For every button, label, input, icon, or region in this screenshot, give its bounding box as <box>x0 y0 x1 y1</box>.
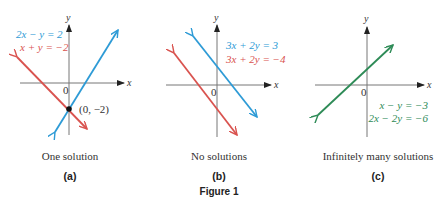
equation-red: 3x + 2y = −4 <box>225 53 286 65</box>
panel-a: x y 0 (0, −2) 2x − y = 2 x + y = −2 One … <box>16 12 132 182</box>
intersection-point <box>66 106 72 112</box>
equation-green-2: 2x − 2y = −6 <box>368 112 428 124</box>
panel-caption: Infinitely many solutions <box>323 150 434 162</box>
y-axis-label: y <box>65 12 71 23</box>
panel-label: (a) <box>64 170 77 182</box>
x-axis-label: x <box>273 79 279 90</box>
figure-canvas: x y 0 (0, −2) 2x − y = 2 x + y = −2 One … <box>0 0 442 213</box>
panel-b: x y 0 3x + 2y = 3 3x + 2y = −4 No soluti… <box>166 12 286 182</box>
equation-red: x + y = −2 <box>19 41 69 53</box>
panel-caption: One solution <box>42 150 99 162</box>
origin-label: 0 <box>361 86 367 98</box>
x-axis-label: x <box>126 77 132 88</box>
y-axis-label: y <box>363 13 369 24</box>
panel-c: x y 0 x − y = −3 2x − 2y = −6 Infinitely… <box>315 13 433 182</box>
panel-label: (b) <box>212 170 225 182</box>
y-axis-label: y <box>213 12 219 23</box>
equation-green-1: x − y = −3 <box>378 99 428 111</box>
equation-blue: 3x + 2y = 3 <box>225 39 279 51</box>
red-line <box>17 57 87 129</box>
equation-blue: 2x − y = 2 <box>16 28 63 40</box>
red-line <box>174 53 237 135</box>
intersection-label: (0, −2) <box>79 103 109 116</box>
origin-label: 0 <box>211 86 217 98</box>
origin-label: 0 <box>63 84 69 96</box>
x-axis-label: x <box>426 79 432 90</box>
panel-caption: No solutions <box>191 150 247 162</box>
panel-label: (c) <box>372 170 385 182</box>
figure-title: Figure 1 <box>200 186 239 197</box>
